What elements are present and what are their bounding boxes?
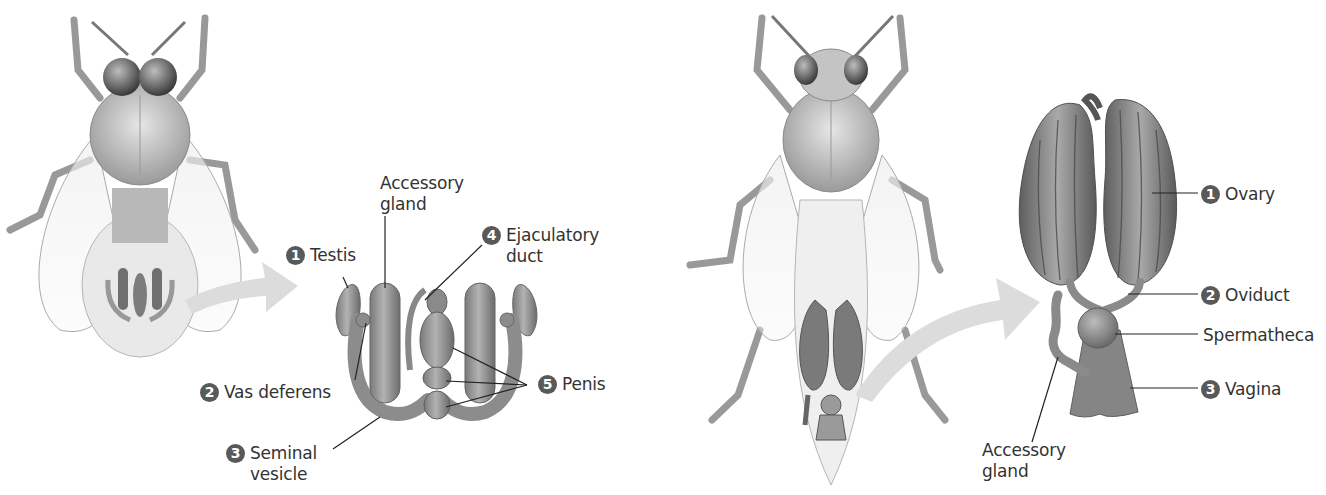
label-accessory-gland-male: Accessory gland xyxy=(380,173,464,215)
label-testis: 1Testis xyxy=(286,245,356,266)
label-vas-deferens: 2Vas deferens xyxy=(200,382,331,403)
number-badge: 3 xyxy=(226,444,245,463)
label-spermatheca: Spermatheca xyxy=(1203,325,1314,345)
label-oviduct: 2Oviduct xyxy=(1201,285,1289,306)
label-seminal-vesicle: 3Seminal vesicle xyxy=(226,443,317,485)
number-badge: 3 xyxy=(1201,380,1220,399)
label-accessory-gland-female: Accessory gland xyxy=(982,440,1066,482)
drone-bee-illustration xyxy=(10,18,255,357)
label-penis: 5Penis xyxy=(538,374,605,395)
number-badge: 2 xyxy=(200,383,219,402)
label-ejaculatory-duct: 4Ejaculatory duct xyxy=(482,225,599,267)
label-vagina: 3Vagina xyxy=(1201,379,1281,400)
male-reproductive-organs xyxy=(336,283,537,419)
female-reproductive-organs xyxy=(1019,96,1176,417)
illustration xyxy=(0,0,1326,495)
figure-bee-reproductive-systems: 1Testis Accessory gland 4Ejaculatory duc… xyxy=(0,0,1326,495)
number-badge: 1 xyxy=(286,246,305,265)
queen-bee-illustration xyxy=(690,16,945,485)
number-badge: 1 xyxy=(1201,185,1220,204)
number-badge: 2 xyxy=(1201,286,1220,305)
number-badge: 5 xyxy=(538,375,557,394)
number-badge: 4 xyxy=(482,226,501,245)
label-ovary: 1Ovary xyxy=(1201,184,1275,205)
